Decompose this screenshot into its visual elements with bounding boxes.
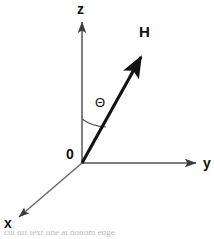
y-axis-label: y — [203, 156, 211, 170]
axes-diagram — [0, 0, 214, 239]
h-vector-line — [82, 57, 141, 163]
theta-angle-label: Θ — [95, 96, 105, 109]
x-axis-label: x — [4, 216, 12, 230]
h-vector-label: H — [139, 24, 150, 39]
z-axis-label: z — [77, 2, 84, 16]
clipped-caption-strip: cut off text line at bottom edge — [0, 231, 214, 239]
clipped-caption-text: cut off text line at bottom edge — [4, 231, 115, 237]
x-axis-line — [19, 163, 82, 217]
origin-label: 0 — [66, 147, 74, 161]
coordinate-system-figure: z y x H 0 Θ cut off text line at bottom … — [0, 0, 214, 239]
